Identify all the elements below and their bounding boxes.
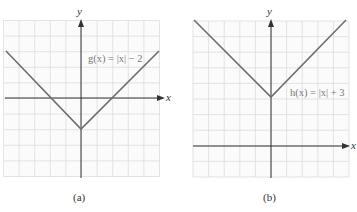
graph-b-x-label: x	[350, 139, 356, 151]
graph-panel-a: x y g(x) = |x| − 2 (a)	[0, 0, 178, 212]
graph-a-x-label: x	[165, 91, 171, 103]
graph-a-y-label: y	[76, 5, 82, 17]
graph-b-plot: x y h(x) = |x| + 3	[178, 0, 357, 212]
graph-b-caption: (b)	[263, 191, 276, 203]
graph-a-function-label: g(x) = |x| − 2	[88, 53, 143, 65]
graph-a-plot: x y g(x) = |x| − 2	[0, 0, 178, 212]
graph-panel-b: x y h(x) = |x| + 3 (b)	[178, 0, 357, 212]
graph-b-function-label: h(x) = |x| + 3	[290, 87, 345, 99]
graph-a-caption: (a)	[73, 191, 85, 203]
graph-a-x-axis-arrow-icon	[157, 95, 165, 101]
graph-b-y-label: y	[266, 5, 272, 17]
